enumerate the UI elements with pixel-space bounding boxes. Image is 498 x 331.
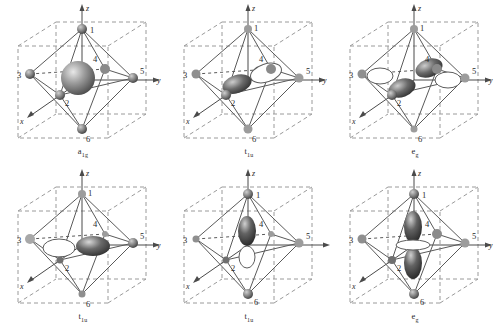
- vertex-label-1: 1: [422, 190, 426, 200]
- axis-label-y: y: [156, 241, 161, 250]
- axis-label-x: x: [185, 282, 190, 291]
- vertex-label-3: 3: [17, 70, 21, 80]
- vertex-label-5: 5: [140, 231, 144, 241]
- panel-caption-t1u-x: t1u: [166, 146, 332, 158]
- axis-label-x: x: [185, 117, 190, 126]
- vertex-label-1: 1: [90, 25, 94, 35]
- vertex-label-6: 6: [252, 134, 256, 144]
- caption-sub: g: [415, 317, 418, 323]
- panel-caption-a1g: a1g: [0, 146, 166, 158]
- vertex-label-6: 6: [86, 299, 90, 309]
- vertex-label-1: 1: [88, 188, 92, 198]
- panel-caption-eg-z2: eg: [332, 311, 498, 323]
- vertex-label-6: 6: [418, 134, 422, 144]
- axis-label-x: x: [351, 117, 356, 126]
- panel-t1u-z: z x: [166, 165, 332, 331]
- vertex-label-2: 2: [65, 98, 69, 108]
- vertex-label-1: 1: [254, 23, 258, 33]
- orbital-p-z: [238, 216, 256, 268]
- caption-sub: 1u: [247, 152, 253, 158]
- vertex-label-3: 3: [349, 235, 353, 245]
- octahedral-orbital-figure: z y x: [0, 0, 498, 331]
- vertex-label-5: 5: [140, 66, 144, 76]
- vertex-label-1: 1: [256, 190, 260, 200]
- panel-caption-eg-x2y2: eg: [332, 146, 498, 158]
- axis-label-z: z: [85, 4, 90, 13]
- vertex-label-5: 5: [472, 66, 476, 76]
- vertex-label-3: 3: [17, 235, 21, 245]
- vertex-label-3: 3: [183, 235, 187, 245]
- vertex-label-2: 2: [397, 98, 401, 108]
- vertex-label-3: 3: [349, 70, 353, 80]
- panel-a1g: z y x: [0, 0, 166, 166]
- vertex-label-2: 2: [231, 98, 235, 108]
- axis-label-z: z: [251, 4, 256, 13]
- orbital-p-y: [43, 236, 110, 257]
- axis-label-x: x: [19, 282, 24, 291]
- axis-label-x: x: [351, 282, 356, 291]
- vertex-label-6: 6: [254, 297, 258, 307]
- orbital-lobe-s: [61, 61, 95, 95]
- caption-sub: 1u: [247, 317, 253, 323]
- vertex-label-5: 5: [472, 231, 476, 241]
- vertex-label-5: 5: [306, 231, 310, 241]
- vertex-label-2: 2: [231, 263, 235, 273]
- caption-sub: 1u: [81, 317, 87, 323]
- panel-caption-t1u-z: t1u: [166, 311, 332, 323]
- vertex-label-6: 6: [86, 134, 90, 144]
- vertex-label-3: 3: [183, 70, 187, 80]
- panel-t1u-x: z y x: [166, 0, 332, 166]
- vertex-label-5: 5: [306, 66, 310, 76]
- panel-eg-z2: z y x: [332, 165, 498, 331]
- vertex-label-2: 2: [397, 263, 401, 273]
- axis-label-y: y: [156, 76, 161, 85]
- panel-caption-t1u-y: t1u: [0, 311, 166, 323]
- panel-eg-x2y2: z y x: [332, 0, 498, 166]
- vertex-label-2: 2: [65, 263, 69, 273]
- orbital-torus: [396, 240, 430, 250]
- vertex-label-1: 1: [420, 23, 424, 33]
- axis-label-z: z: [417, 169, 422, 178]
- axis-label-z: z: [251, 169, 256, 178]
- axis-label-x: x: [19, 117, 24, 126]
- axis-label-y: y: [322, 76, 327, 85]
- panel-t1u-y: z y x: [0, 165, 166, 331]
- caption-sub: g: [415, 152, 418, 158]
- caption-sub: 1g: [82, 152, 88, 158]
- axis-label-z: z: [85, 169, 90, 178]
- axis-label-z: z: [417, 4, 422, 13]
- axis-label-y: y: [488, 241, 493, 250]
- vertex-label-6: 6: [420, 297, 424, 307]
- axis-label-y: y: [488, 76, 493, 85]
